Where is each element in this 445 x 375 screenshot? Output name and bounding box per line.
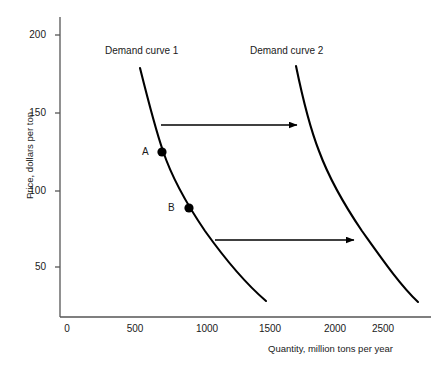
x-tick-label-0: 0	[47, 324, 87, 334]
x-tick-label-1000: 1000	[187, 324, 227, 334]
x-tick-label-1500: 1500	[250, 324, 290, 334]
demand-curve-2-label: Demand curve 2	[250, 46, 323, 56]
x-tick-label-2500: 2500	[363, 324, 403, 334]
point-b-label: B	[168, 203, 175, 213]
demand-curve-chart: 200 150 100 50 0 500 1000 1500 2000 2500…	[0, 0, 445, 375]
x-axis-title: Quantity, million tons per year	[268, 344, 393, 354]
y-tick-label-200: 200	[14, 30, 46, 40]
point-b-marker	[184, 203, 193, 212]
x-tick-label-2000: 2000	[315, 324, 355, 334]
x-tick-label-500: 500	[115, 324, 155, 334]
demand-curve-1-label: Demand curve 1	[105, 46, 178, 56]
demand-curve-2-path	[296, 66, 418, 302]
point-a-label: A	[142, 147, 149, 157]
y-axis-title: Price, dollars per ton	[24, 101, 35, 211]
point-a-marker	[157, 147, 166, 156]
y-tick-label-50: 50	[14, 262, 46, 272]
demand-curve-1-path	[140, 68, 266, 301]
chart-plot-area	[0, 0, 445, 375]
